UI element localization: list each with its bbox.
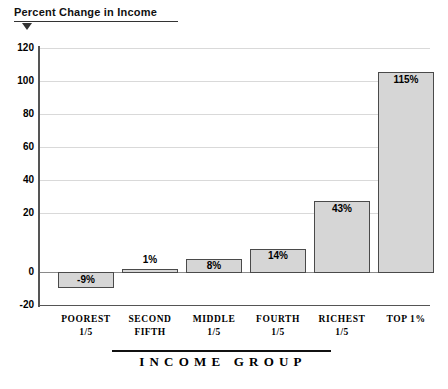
bar-label-top-one-percent: 115% bbox=[378, 75, 434, 85]
x-category-fourth: FOURTH 1/5 bbox=[242, 313, 314, 339]
bar-top-one-percent[interactable] bbox=[378, 72, 434, 273]
bar-second-fifth[interactable] bbox=[122, 269, 178, 273]
x-category-poorest-line1: POOREST bbox=[61, 314, 111, 324]
x-category-poorest-line2: 1/5 bbox=[50, 326, 122, 339]
bar-label-second-fifth: 1% bbox=[122, 255, 178, 265]
bar-label-middle: 8% bbox=[186, 261, 242, 271]
bar-label-richest: 43% bbox=[314, 204, 370, 214]
group-caption-rule bbox=[112, 350, 331, 352]
x-category-fourth-line1: FOURTH bbox=[256, 314, 300, 324]
x-category-top-one-percent-line1: TOP 1% bbox=[386, 314, 425, 324]
x-category-poorest: POOREST 1/5 bbox=[50, 313, 122, 339]
x-axis-title: INCOME GROUP bbox=[112, 354, 334, 370]
bar-label-poorest: -9% bbox=[58, 275, 114, 285]
x-category-middle: MIDDLE 1/5 bbox=[178, 313, 250, 339]
x-category-top-one-percent: TOP 1% bbox=[370, 313, 442, 326]
x-category-richest: RICHEST 1/5 bbox=[306, 313, 378, 339]
bar-label-fourth: 14% bbox=[250, 251, 306, 261]
x-category-second-fifth: SECOND FIFTH bbox=[114, 313, 186, 339]
x-category-richest-line2: 1/5 bbox=[306, 326, 378, 339]
x-category-middle-line1: MIDDLE bbox=[193, 314, 236, 324]
bar-chart: Percent Change in Income 120 100 80 60 4… bbox=[0, 0, 448, 389]
x-category-richest-line1: RICHEST bbox=[319, 314, 366, 324]
x-category-second-fifth-line2: FIFTH bbox=[114, 326, 186, 339]
x-category-middle-line2: 1/5 bbox=[178, 326, 250, 339]
x-category-second-fifth-line1: SECOND bbox=[128, 314, 171, 324]
x-category-fourth-line2: 1/5 bbox=[242, 326, 314, 339]
